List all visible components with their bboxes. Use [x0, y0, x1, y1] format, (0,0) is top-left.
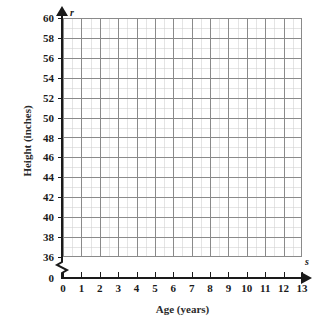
- x-tick-mark: [284, 272, 285, 277]
- y-tick-label: 50: [22, 112, 54, 124]
- x-tick-mark: [63, 272, 64, 277]
- x-axis-title: Age (years): [63, 303, 302, 315]
- y-tick-mark: [58, 38, 63, 39]
- y-tick-mark: [58, 118, 63, 119]
- y-tick-label: 52: [22, 92, 54, 104]
- y-tick-label: 54: [22, 72, 54, 84]
- y-tick-label: 38: [22, 231, 54, 243]
- x-tick-mark: [247, 272, 248, 277]
- y-tick-mark: [58, 58, 63, 59]
- y-axis-arrowhead-icon: [56, 6, 68, 16]
- y-tick-label: 46: [22, 151, 54, 163]
- y-tick-mark: [58, 78, 63, 79]
- y-tick-label: 42: [22, 191, 54, 203]
- plot-area[interactable]: [63, 18, 302, 257]
- graph-figure: r s Age (years) Height (inches) 01234567…: [0, 0, 326, 330]
- y-tick-label: 60: [22, 12, 54, 24]
- x-tick-mark: [210, 272, 211, 277]
- x-tick-label: 13: [289, 282, 315, 295]
- x-tick-mark: [302, 272, 303, 277]
- y-axis-break-icon: [54, 256, 70, 278]
- x-axis-line: [61, 277, 302, 279]
- y-tick-mark: [58, 177, 63, 178]
- y-tick-label: 40: [22, 211, 54, 223]
- gridline-right-edge: [301, 18, 302, 257]
- y-tick-label: 36: [22, 251, 54, 263]
- y-tick-label: 56: [22, 52, 54, 64]
- x-tick-mark: [100, 272, 101, 277]
- y-tick-mark: [58, 18, 63, 19]
- x-tick-mark: [81, 272, 82, 277]
- y-tick-mark: [58, 157, 63, 158]
- y-tick-label: 48: [22, 132, 54, 144]
- y-tick-label: 58: [22, 32, 54, 44]
- y-tick-mark: [58, 98, 63, 99]
- y-tick-mark: [58, 237, 63, 238]
- y-tick-mark: [58, 217, 63, 218]
- x-tick-mark: [173, 272, 174, 277]
- major-gridlines: [63, 18, 302, 257]
- x-tick-mark: [265, 272, 266, 277]
- y-tick-mark: [58, 197, 63, 198]
- x-tick-mark: [137, 272, 138, 277]
- y-tick-mark: [58, 138, 63, 139]
- y-tick-label: 44: [22, 171, 54, 183]
- x-axis-variable-label: s: [305, 256, 309, 267]
- x-tick-mark: [118, 272, 119, 277]
- gridline-bottom-edge: [63, 256, 302, 257]
- y-tick-label: 0: [22, 272, 54, 284]
- x-tick-mark: [228, 272, 229, 277]
- y-axis-variable-label: r: [70, 7, 74, 18]
- x-tick-mark: [155, 272, 156, 277]
- y-tick-mark: [58, 257, 63, 258]
- x-tick-mark: [192, 272, 193, 277]
